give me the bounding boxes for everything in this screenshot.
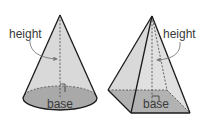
pyramid-base-label: base	[143, 97, 169, 111]
diagram-canvas: height base height base	[0, 0, 210, 124]
cone-figure: height base	[9, 15, 97, 111]
cone-base-label: base	[47, 97, 73, 111]
cone-height-label: height	[9, 27, 42, 41]
pyramid-figure: height base	[108, 16, 196, 113]
pyramid-height-label: height	[163, 27, 196, 41]
